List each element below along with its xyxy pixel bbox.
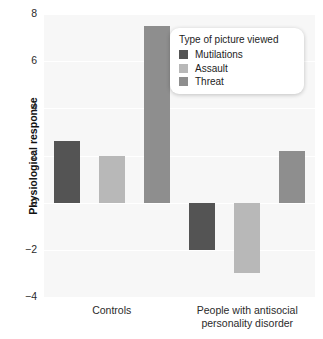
x-category-label-line: People with antisocial (177, 304, 317, 317)
legend-item-label: Assault (195, 63, 228, 74)
y-tick-label-8: 8 (0, 7, 37, 19)
legend-title: Type of picture viewed (179, 34, 296, 45)
y-tick-label-0: 0 (0, 196, 37, 208)
legend: Type of picture viewed MutilationsAssaul… (170, 28, 304, 94)
legend-item-mutilations[interactable]: Mutilations (179, 49, 296, 60)
legend-item-label: Mutilations (195, 49, 243, 60)
y-tick-label-2: 2 (0, 149, 37, 161)
legend-swatch-threat-icon (179, 77, 188, 86)
y-tick-label-neg2: −2 (0, 243, 37, 255)
gridline-2 (44, 156, 315, 157)
gridline-0 (44, 203, 315, 204)
x-category-label-line: personality disorder (177, 317, 317, 330)
gridline-8 (44, 14, 315, 15)
legend-item-label: Threat (195, 76, 224, 87)
y-tick-label-neg4: −4 (0, 290, 37, 302)
x-category-label-line: Controls (42, 304, 182, 317)
bar-assault-controls (99, 156, 125, 203)
x-category-label-aspd: People with antisocialpersonality disord… (177, 304, 317, 329)
bar-mutilations-aspd (189, 203, 215, 250)
bar-assault-aspd (234, 203, 260, 274)
legend-item-assault[interactable]: Assault (179, 63, 296, 74)
y-tick-label-6: 6 (0, 54, 37, 66)
legend-items: MutilationsAssaultThreat (179, 49, 296, 87)
legend-swatch-assault-icon (179, 64, 188, 73)
y-tick-label-4: 4 (0, 101, 37, 113)
bar-mutilations-controls (54, 141, 80, 202)
bar-chart-figure: Physiological response 86420−2−4 Control… (0, 0, 323, 339)
gridline-neg2 (44, 250, 315, 251)
bar-threat-aspd (279, 151, 305, 203)
x-category-label-controls: Controls (42, 304, 182, 317)
legend-swatch-mutilations-icon (179, 50, 188, 59)
clipped-top-caption (6, 0, 306, 3)
bar-threat-controls (144, 26, 170, 203)
gridline-4 (44, 108, 315, 109)
legend-item-threat[interactable]: Threat (179, 76, 296, 87)
